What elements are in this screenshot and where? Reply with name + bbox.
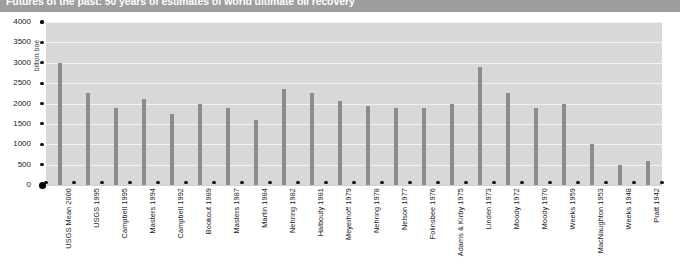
x-axis-tick-dot: [436, 181, 439, 184]
y-axis-tick-dot: [40, 102, 43, 105]
bar: [198, 104, 202, 186]
x-axis-tick-dot: [72, 181, 75, 184]
x-axis-label: Halbouty 1981: [316, 188, 325, 236]
x-axis-tick-dot: [492, 181, 495, 184]
x-axis-tick-dot: [408, 181, 411, 184]
y-axis-tick-label: 0: [27, 181, 31, 189]
x-axis-label: Moody 1972: [512, 188, 521, 229]
y-axis-ticks: 05001000150020002500300035004000: [0, 0, 40, 190]
y-axis-tick-label: 1000: [13, 140, 31, 148]
x-axis-label: Weeks 1959: [568, 188, 577, 229]
x-axis-label: USGS Mean 2000: [64, 188, 73, 249]
bar: [422, 108, 426, 185]
x-axis-tick-dot: [660, 181, 663, 184]
x-axis-tick-dot: [324, 181, 327, 184]
x-axis-tick-dot: [44, 181, 47, 184]
bar: [86, 93, 90, 185]
bar: [254, 120, 258, 185]
y-axis-tick-label: 500: [18, 161, 31, 169]
x-axis-label: Nehring 1982: [288, 188, 297, 233]
bar: [58, 63, 62, 185]
bar: [450, 104, 454, 186]
x-axis-label: Weeks 1948: [624, 188, 633, 229]
x-axis-labels: USGS Mean 2000USGS 1995Campbell 1995Mast…: [46, 188, 662, 272]
bar: [226, 108, 230, 185]
x-axis-tick-dot: [240, 181, 243, 184]
x-axis-label: Moody 1970: [540, 188, 549, 229]
y-axis-tick-label: 2000: [13, 100, 31, 108]
x-axis-label: Bookout 1989: [204, 188, 213, 234]
x-axis-tick-dot: [296, 181, 299, 184]
x-axis-tick-dot: [352, 181, 355, 184]
y-axis-tick-label: 4000: [13, 18, 31, 26]
x-axis-tick-dot: [464, 181, 467, 184]
y-axis-tick-dot: [40, 143, 43, 146]
bar: [310, 93, 314, 185]
y-axis-tick-dot: [40, 122, 43, 125]
bar: [590, 144, 594, 185]
x-axis-label: Campbell 1995: [120, 188, 129, 238]
x-axis-label: Meyerhoff 1979: [344, 188, 353, 240]
bar: [562, 104, 566, 186]
x-axis-tick-dot: [632, 181, 635, 184]
x-axis-tick-dot: [268, 181, 271, 184]
x-axis-label: Nelson 1977: [400, 188, 409, 230]
y-axis-tick-dot: [40, 41, 43, 44]
bar: [506, 93, 510, 185]
bar: [338, 101, 342, 185]
x-axis-tick-dot: [548, 181, 551, 184]
bar: [170, 114, 174, 185]
y-axis-tick-dot: [40, 20, 43, 23]
bar: [534, 108, 538, 185]
y-axis-tick-label: 3500: [13, 38, 31, 46]
bar: [366, 106, 370, 185]
x-axis-label: Pratt 1942: [652, 188, 661, 223]
x-axis-tick-dot: [520, 181, 523, 184]
bar: [282, 89, 286, 185]
x-axis-tick-dot: [604, 181, 607, 184]
y-axis-tick-label: 1500: [13, 120, 31, 128]
bar: [478, 67, 482, 185]
x-axis-tick-dot: [100, 181, 103, 184]
x-axis-label: Adams & Kirby 1975: [456, 188, 465, 256]
x-axis-label: Folinsbee 1976: [428, 188, 437, 239]
bar: [142, 99, 146, 185]
y-axis-tick-dot: [40, 163, 43, 166]
y-axis-tick-label: 3000: [13, 59, 31, 67]
x-axis-label: Martin 1984: [260, 188, 269, 228]
x-axis-label: USGS 1995: [92, 188, 101, 228]
y-axis-tick-label: 2500: [13, 79, 31, 87]
bar-series: [46, 22, 662, 185]
bar: [114, 108, 118, 185]
x-axis-tick-dot: [184, 181, 187, 184]
x-axis-tick-dot: [380, 181, 383, 184]
x-axis-tick-dot: [576, 181, 579, 184]
x-axis-label: MacNaughton 1953: [596, 188, 605, 253]
title-band: Futures of the past: 50 years of estimat…: [0, 0, 680, 12]
x-axis-tick-dot: [128, 181, 131, 184]
x-axis-label: Nehring 1978: [372, 188, 381, 233]
x-axis-label: Linden 1973: [484, 188, 493, 229]
x-axis-tick-dot: [156, 181, 159, 184]
y-axis-tick-dot: [40, 82, 43, 85]
x-axis-label: Masters 1987: [232, 188, 241, 233]
page-title: Futures of the past: 50 years of estimat…: [6, 0, 355, 7]
x-axis-tick-dot: [212, 181, 215, 184]
y-axis-tick-dot: [40, 61, 43, 64]
bar: [394, 108, 398, 185]
x-axis-label: Campbell 1992: [176, 188, 185, 238]
chart-screenshot: Futures of the past: 50 years of estimat…: [0, 0, 680, 272]
x-axis-label: Masters 1994: [148, 188, 157, 233]
